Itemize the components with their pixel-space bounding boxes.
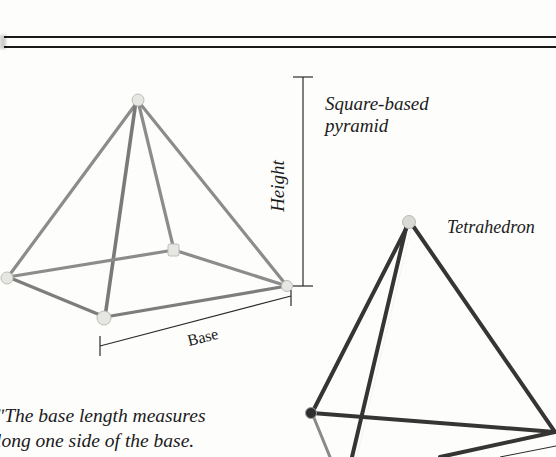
caption: ʺThe base length measures long one side … <box>0 403 205 453</box>
caption-line-2: long one side of the base. <box>0 428 205 453</box>
square-pyramid-joints <box>1 94 293 325</box>
tetrahedron <box>312 223 555 457</box>
height-label: Height <box>267 160 289 212</box>
tetrahedron-label: Tetrahedron <box>447 217 535 238</box>
height-dimension <box>293 77 313 286</box>
square-pyramid-label-line-2: pyramid <box>325 115 429 137</box>
square-pyramid <box>8 101 287 317</box>
tetrahedron-base-dimension <box>500 446 556 457</box>
square-pyramid-label: Square-based pyramid <box>325 93 429 137</box>
caption-line-1: ʺThe base length measures <box>0 403 205 428</box>
square-pyramid-label-line-1: Square-based <box>325 93 429 115</box>
